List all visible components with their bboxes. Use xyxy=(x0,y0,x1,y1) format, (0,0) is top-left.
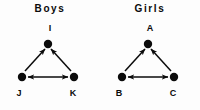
panel-title-boys: Boys xyxy=(0,3,100,15)
node-c xyxy=(170,73,178,81)
edge-b-to-a xyxy=(125,49,145,71)
node-k xyxy=(70,73,78,81)
node-b xyxy=(118,73,126,81)
node-label-a: A xyxy=(134,23,166,33)
edge-k-to-i xyxy=(51,49,71,71)
edge-j-to-i xyxy=(25,49,45,71)
node-label-b: B xyxy=(108,88,130,98)
edge-c-to-a xyxy=(151,49,171,71)
node-label-c: C xyxy=(162,88,184,98)
node-label-i: I xyxy=(34,23,66,33)
node-label-k: K xyxy=(62,88,84,98)
node-label-j: J xyxy=(8,88,30,98)
panel-girls: Girls xyxy=(100,0,200,110)
graph-girls: A B C xyxy=(100,22,200,110)
panel-boys: Boys xyxy=(0,0,100,110)
node-a xyxy=(144,40,152,48)
node-i xyxy=(44,40,52,48)
panel-title-girls: Girls xyxy=(100,3,200,15)
graph-boys: I J K xyxy=(0,22,100,110)
node-j xyxy=(18,73,26,81)
diagram-canvas: Boys xyxy=(0,0,200,110)
